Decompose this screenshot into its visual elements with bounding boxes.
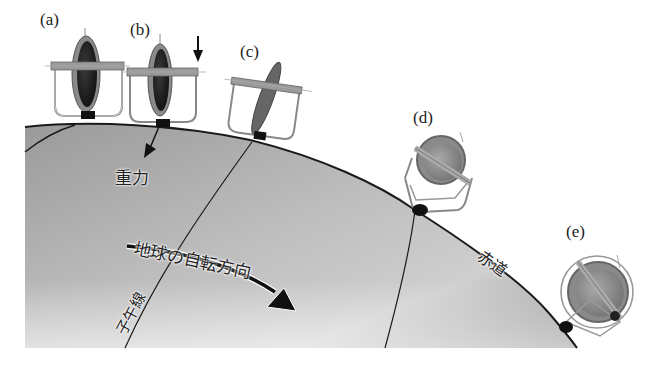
gyroscope-earth-diagram: (a) (b) (c) (d) (e) 重力 地球の自転方向 子午線 赤道 [0, 0, 648, 374]
gyroscope-b [122, 34, 206, 127]
down-arrow-icon [193, 36, 203, 62]
gyroscope-d [405, 132, 472, 216]
gyroscope-a [45, 28, 130, 119]
label-b: (b) [130, 20, 150, 40]
earth-globe [25, 124, 577, 348]
label-c: (c) [240, 42, 259, 62]
label-e: (e) [566, 222, 585, 242]
gyroscope-e [559, 255, 633, 336]
gyroscope-c [217, 54, 315, 146]
label-d: (d) [413, 108, 433, 128]
diagram-canvas [0, 0, 648, 374]
label-a: (a) [40, 10, 59, 30]
gravity-label: 重力 [115, 164, 149, 189]
